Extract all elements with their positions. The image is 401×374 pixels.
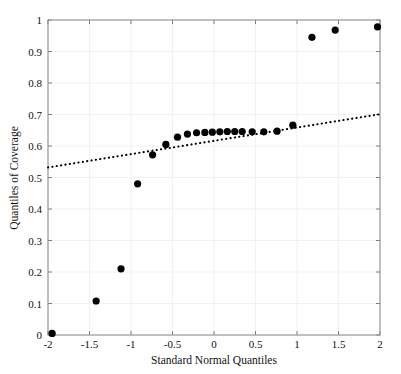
x-tick-label: 1.5 bbox=[332, 338, 346, 350]
plot-canvas: -2-1.5-1-0.500.511.52 00.10.20.30.40.50.… bbox=[0, 0, 401, 374]
x-tick-label: 1 bbox=[294, 338, 300, 350]
y-tick-labels: 00.10.20.30.40.50.60.70.80.91 bbox=[28, 14, 42, 341]
y-tick-label: 0.8 bbox=[28, 77, 42, 89]
data-point bbox=[273, 128, 280, 135]
data-point bbox=[134, 180, 141, 187]
data-point bbox=[216, 128, 223, 135]
data-point bbox=[231, 128, 238, 135]
data-point bbox=[149, 151, 156, 158]
y-tick-label: 0.9 bbox=[28, 46, 42, 58]
data-point bbox=[174, 134, 181, 141]
y-tick-label: 0.6 bbox=[28, 140, 42, 152]
x-tick-label: -1.5 bbox=[81, 338, 99, 350]
y-tick-label: 0 bbox=[37, 329, 43, 341]
x-tick-label: 0 bbox=[211, 338, 217, 350]
data-point bbox=[289, 122, 296, 129]
data-point bbox=[249, 128, 256, 135]
x-tick-label: 0.5 bbox=[249, 338, 263, 350]
data-point bbox=[209, 129, 216, 136]
data-point bbox=[239, 128, 246, 135]
data-point bbox=[49, 330, 56, 337]
x-tick-label: -0.5 bbox=[164, 338, 182, 350]
data-point bbox=[162, 141, 169, 148]
y-tick-label: 0.5 bbox=[28, 172, 42, 184]
x-axis-title: Standard Normal Quantiles bbox=[151, 354, 277, 366]
data-point bbox=[201, 129, 208, 136]
data-point bbox=[260, 128, 267, 135]
x-tick-label: -2 bbox=[43, 338, 52, 350]
y-tick-label: 0.1 bbox=[28, 298, 42, 310]
y-tick-label: 0.7 bbox=[28, 109, 42, 121]
data-point bbox=[374, 23, 381, 30]
x-tick-label: -1 bbox=[126, 338, 135, 350]
y-tick-label: 0.2 bbox=[28, 266, 42, 278]
x-tick-labels: -2-1.5-1-0.500.511.52 bbox=[43, 338, 382, 350]
x-tick-label: 2 bbox=[377, 338, 383, 350]
data-point bbox=[193, 129, 200, 136]
data-point bbox=[308, 34, 315, 41]
data-point bbox=[117, 265, 124, 272]
data-point bbox=[184, 130, 191, 137]
data-point bbox=[332, 26, 339, 33]
y-tick-label: 1 bbox=[37, 14, 43, 26]
data-point bbox=[224, 128, 231, 135]
y-axis-title: Quantiles of Coverage bbox=[8, 126, 21, 229]
data-point bbox=[93, 297, 100, 304]
qq-plot-figure: -2-1.5-1-0.500.511.52 00.10.20.30.40.50.… bbox=[0, 0, 401, 374]
y-tick-label: 0.3 bbox=[28, 235, 42, 247]
y-tick-label: 0.4 bbox=[28, 203, 42, 215]
